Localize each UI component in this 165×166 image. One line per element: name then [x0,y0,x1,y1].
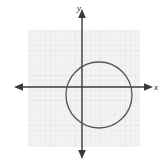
x-axis-right-arrow-icon [144,83,153,91]
coordinate-plane-figure: x y [0,0,165,166]
y-axis-label: y [76,3,81,13]
x-axis-label: x [153,82,158,92]
graph-svg: x y [0,0,165,166]
x-axis-left-arrow-icon [14,83,23,91]
y-axis-bottom-arrow-icon [78,150,86,159]
grid-background [28,30,140,147]
